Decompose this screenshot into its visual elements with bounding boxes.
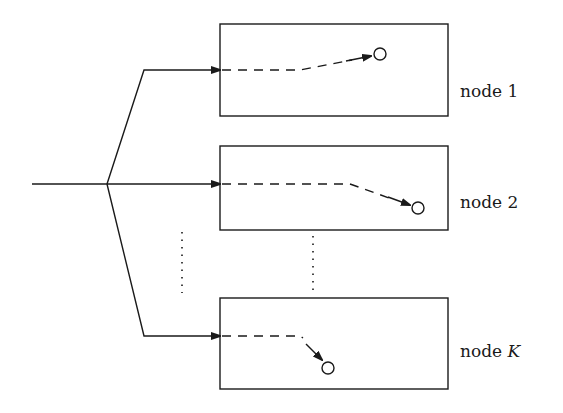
node-1-dashed-path	[222, 60, 352, 70]
node-k: node K	[220, 298, 522, 389]
node-1-label: node 1	[460, 81, 518, 101]
node-k-label: node K	[460, 341, 522, 361]
fanout-diagram: node 1 node 2 node K	[0, 0, 563, 413]
node-2-circle-icon	[412, 202, 424, 214]
node-2-label: node 2	[460, 192, 518, 212]
branch-node-k	[107, 184, 220, 336]
node-2: node 2	[220, 146, 518, 230]
node-k-box	[220, 298, 448, 389]
node-2-dashed-path	[222, 184, 392, 199]
node-1: node 1	[220, 24, 518, 116]
node-1-arrow	[346, 56, 371, 61]
node-k-arrow	[306, 344, 322, 360]
node-k-circle-icon	[322, 362, 334, 374]
branch-node-1	[107, 70, 220, 184]
node-k-dashed-path	[222, 336, 303, 338]
node-2-box	[220, 146, 448, 230]
node-2-arrow	[388, 197, 410, 205]
node-1-circle-icon	[374, 48, 386, 60]
